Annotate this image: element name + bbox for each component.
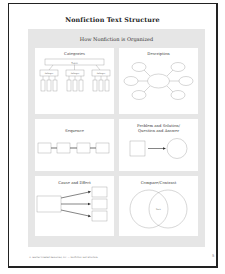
panel-subtitle: How Nonfiction is Organized <box>28 36 205 42</box>
topic-label: Topic <box>71 62 78 65</box>
venn-diagram: Both <box>119 176 198 236</box>
page-title: Nonfiction Text Structure <box>9 16 216 24</box>
sequence-flow-diagram <box>35 119 114 171</box>
svg-text:Subtopic: Subtopic <box>71 72 80 75</box>
card-cause-effect: Cause and Effect <box>35 176 114 236</box>
description-web-diagram <box>119 48 198 114</box>
page-number: 5 <box>212 254 214 258</box>
footer-credit: © Teacher Created Resources, Inc. — Nonf… <box>29 256 98 259</box>
cause-effect-diagram <box>35 176 114 236</box>
organizer-panel: How Nonfiction is Organized Categories <box>28 29 205 247</box>
card-problem-solution: Problem and Solution/ Question and Answe… <box>119 119 198 171</box>
venn-center-label: Both <box>156 208 161 211</box>
card-categories: Categories <box>35 48 114 114</box>
card-compare-contrast: Compare/Contrast Both <box>119 176 198 236</box>
worksheet-page: Nonfiction Text Structure How Nonfiction… <box>8 3 218 268</box>
svg-text:Subtopic: Subtopic <box>45 72 54 75</box>
svg-text:Subtopic: Subtopic <box>97 72 106 75</box>
card-description: Description <box>119 48 198 114</box>
card-sequence: Sequence <box>35 119 114 171</box>
categories-tree-diagram: Topic Subtopic Subtopic Subtopic <box>35 48 114 114</box>
problem-solution-diagram <box>119 119 198 171</box>
